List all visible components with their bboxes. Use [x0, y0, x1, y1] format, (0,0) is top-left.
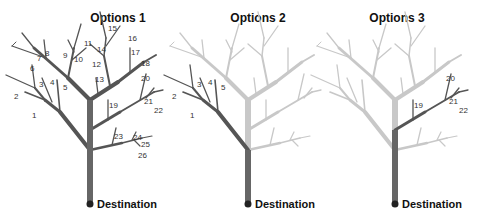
svg-text:26: 26	[138, 151, 147, 160]
svg-text:3: 3	[197, 80, 202, 89]
svg-text:4: 4	[208, 78, 213, 87]
svg-text:7: 7	[37, 54, 42, 63]
option-numbers: 19 20 21 22	[414, 74, 468, 115]
destination-label: Destination	[255, 198, 315, 210]
svg-text:10: 10	[74, 55, 83, 64]
svg-text:23: 23	[114, 132, 123, 141]
svg-text:5: 5	[221, 83, 226, 92]
svg-text:15: 15	[108, 24, 117, 33]
panel-options-2: Options 2 Destination 1 2 3 4 5	[164, 11, 321, 210]
destination-dot	[245, 201, 252, 208]
destination-label: Destination	[97, 198, 157, 210]
svg-text:6: 6	[30, 64, 35, 73]
svg-text:9: 9	[63, 51, 68, 60]
svg-text:12: 12	[92, 60, 101, 69]
svg-text:18: 18	[141, 59, 150, 68]
svg-text:21: 21	[144, 97, 153, 106]
panel-options-1: Options 1 Destination 1 2 3 4 5 6 7 8	[6, 11, 163, 210]
tree-inactive	[311, 12, 461, 150]
panel-title: Options 1	[90, 11, 146, 25]
destination-dot	[392, 201, 399, 208]
options-diagram: Options 1 Destination 1 2 3 4 5 6 7 8	[0, 0, 485, 218]
panel-options-3: Options 3 Destination 19 20 21 22	[311, 11, 468, 210]
destination-dot	[87, 201, 94, 208]
svg-text:25: 25	[141, 140, 150, 149]
destination-label: Destination	[402, 198, 462, 210]
svg-text:1: 1	[32, 111, 37, 120]
svg-text:5: 5	[63, 83, 68, 92]
svg-text:13: 13	[95, 75, 104, 84]
panel-title: Options 3	[369, 11, 425, 25]
svg-text:17: 17	[131, 48, 140, 57]
svg-text:22: 22	[154, 106, 163, 115]
svg-text:3: 3	[39, 80, 44, 89]
svg-text:22: 22	[459, 106, 468, 115]
svg-text:14: 14	[97, 45, 106, 54]
svg-text:2: 2	[172, 92, 177, 101]
svg-text:11: 11	[84, 39, 93, 48]
svg-text:19: 19	[109, 101, 118, 110]
svg-text:4: 4	[50, 78, 55, 87]
svg-text:20: 20	[141, 74, 150, 83]
svg-text:16: 16	[128, 34, 137, 43]
svg-text:20: 20	[446, 74, 455, 83]
svg-text:2: 2	[14, 92, 19, 101]
svg-text:1: 1	[190, 111, 195, 120]
svg-text:19: 19	[414, 101, 423, 110]
svg-text:8: 8	[45, 49, 50, 58]
svg-text:21: 21	[449, 97, 458, 106]
